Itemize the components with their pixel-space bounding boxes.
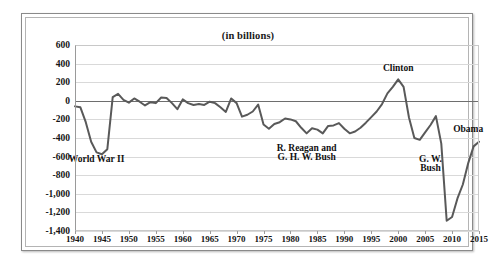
y-axis-tick-label: 200 bbox=[56, 77, 70, 87]
x-axis-tick-mark bbox=[156, 231, 157, 234]
x-axis-tick-label: 2000 bbox=[389, 234, 407, 244]
x-axis-tick-mark bbox=[264, 231, 265, 234]
y-axis-tick-label: 600 bbox=[56, 40, 70, 50]
chart-annotation: World War II bbox=[69, 154, 125, 166]
y-axis-tick-label: 0 bbox=[65, 96, 70, 106]
x-axis-tick-mark bbox=[344, 231, 345, 234]
x-axis-tick-mark bbox=[398, 231, 399, 234]
x-axis-tick-label: 1945 bbox=[93, 234, 111, 244]
x-axis-tick-label: 1955 bbox=[147, 234, 165, 244]
x-axis-tick-label: 1985 bbox=[308, 234, 326, 244]
y-axis-tick-label: -600 bbox=[53, 152, 70, 162]
chart-annotation: G. H. W. Bush bbox=[278, 152, 336, 164]
y-axis-tick-label: 400 bbox=[56, 59, 70, 69]
x-axis-tick-mark bbox=[371, 231, 372, 234]
y-axis-tick-label: -1,200 bbox=[45, 207, 70, 217]
chart-annotation: Bush bbox=[420, 163, 441, 175]
x-axis-tick-mark bbox=[129, 231, 130, 234]
x-axis-tick-label: 2015 bbox=[470, 234, 488, 244]
x-axis-tick-label: 1975 bbox=[255, 234, 273, 244]
x-axis-tick-mark bbox=[102, 231, 103, 234]
y-axis-tick-label: -1,000 bbox=[45, 189, 70, 199]
x-axis-tick-mark bbox=[237, 231, 238, 234]
x-axis-tick-label: 2005 bbox=[416, 234, 434, 244]
x-axis-tick-mark bbox=[479, 231, 480, 234]
chart-title: (in billions) bbox=[22, 30, 474, 41]
x-axis-tick-label: 1980 bbox=[281, 234, 299, 244]
x-axis-tick-label: 1940 bbox=[66, 234, 84, 244]
x-axis-tick-mark bbox=[290, 231, 291, 234]
x-axis-tick-label: 1990 bbox=[335, 234, 353, 244]
x-axis-tick-mark bbox=[425, 231, 426, 234]
y-axis-tick-label: -800 bbox=[53, 170, 70, 180]
chart-annotation: Clinton bbox=[383, 63, 414, 75]
plot-area: 6004002000-200-400-600-800-1,000-1,200-1… bbox=[75, 45, 479, 231]
y-axis-tick-label: -400 bbox=[53, 133, 70, 143]
x-axis-tick-mark bbox=[75, 231, 76, 234]
x-axis-tick-label: 1995 bbox=[362, 234, 380, 244]
x-axis-tick-label: 1965 bbox=[201, 234, 219, 244]
x-axis-tick-mark bbox=[210, 231, 211, 234]
x-axis-tick-mark bbox=[183, 231, 184, 234]
x-axis-tick-label: 1970 bbox=[228, 234, 246, 244]
data-series-line bbox=[75, 45, 479, 231]
x-axis-tick-mark bbox=[317, 231, 318, 234]
x-axis-tick-label: 1950 bbox=[120, 234, 138, 244]
y-axis-tick-label: -200 bbox=[53, 114, 70, 124]
figure-frame: (in billions) 6004002000-200-400-600-800… bbox=[21, 13, 473, 251]
chart-annotation: Obama bbox=[453, 124, 483, 136]
x-axis-tick-label: 1960 bbox=[174, 234, 192, 244]
x-axis-tick-label: 2010 bbox=[443, 234, 461, 244]
x-axis-tick-mark bbox=[452, 231, 453, 234]
gridline bbox=[75, 231, 479, 232]
